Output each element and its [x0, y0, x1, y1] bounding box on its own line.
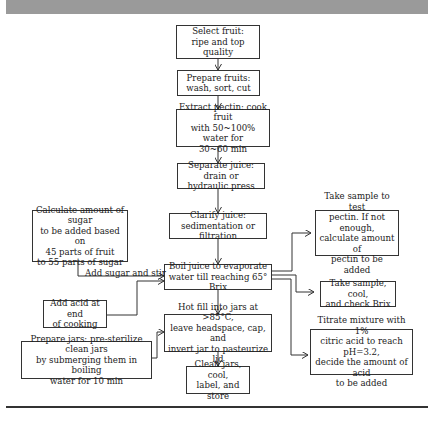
check-titrate: Titrate mixture with 1% citric acid to r…	[310, 329, 413, 375]
input-add-acid: Add acid at end of cooking	[43, 300, 107, 328]
step-separate-juice: Separate juice: drain or hydraulic press	[177, 163, 265, 189]
step-select-fruit: Select fruit: ripe and top quality	[176, 25, 260, 59]
step-extract-pectin: Extract pectin: cook fruit with 50~100% …	[176, 109, 270, 147]
step-clarify-juice: Clarify juice: sedimentation or filtrati…	[169, 213, 267, 239]
step-hot-fill: Hot fill into jars at >85°C, leave heads…	[164, 314, 272, 352]
step-clean-jars: Clean jars, cool, label, and store	[186, 366, 250, 394]
step-prepare-fruits: Prepare fruits: wash, sort, cut	[177, 70, 260, 96]
edge-label-add-sugar: Add sugar and stir	[85, 268, 166, 278]
input-calculate-sugar: Calculate amount of sugar to be added ba…	[32, 210, 128, 262]
check-pectin: Take sample to test pectin. If not enoug…	[315, 210, 399, 256]
check-brix: Take sample, cool, and check Brix	[320, 281, 396, 307]
bottom-rule	[6, 406, 428, 408]
step-boil-juice: Boil juice to evaporate water till reach…	[164, 264, 272, 290]
input-prepare-jars: Prepare jars: pre-sterilize clean jars b…	[21, 341, 152, 379]
